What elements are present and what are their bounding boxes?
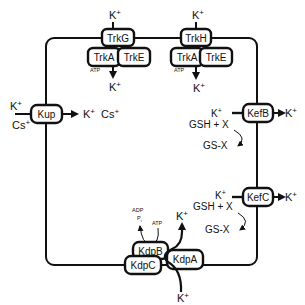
kefb-system: KefB K+ K+ GSH + X GS-X [189, 104, 297, 151]
trkh-output-k: K+ [193, 81, 205, 94]
trkh-system: K+ TrkH TrkA TrkE ATP K+ [171, 8, 232, 94]
kefc-label: KefC [247, 192, 269, 203]
trkg-system: K+ TrkG TrkA TrkE ATP K+ [88, 8, 150, 93]
trkh-label: TrkH [185, 33, 206, 44]
kdp-adp: ADP [132, 207, 144, 213]
trkh-trka-label: TrkA [177, 52, 198, 63]
trkg-trka-label: TrkA [94, 52, 115, 63]
trkh-trke-label: TrkE [206, 52, 227, 63]
kefc-product: GS-X [205, 224, 230, 235]
kefc-inner-k: K+ [215, 189, 226, 201]
kup-system: K+ Cs+ Kup K+ Cs+ [10, 99, 119, 131]
kefc-system: KefC K+ K+ GSH + X GS-X [193, 188, 297, 235]
kefc-output-k: K+ [285, 190, 297, 203]
kdp-pi: Pi [137, 215, 142, 223]
trkh-atp: ATP [174, 67, 185, 73]
trkg-atp: ATP [90, 67, 101, 73]
kefc-reaction: GSH + X [193, 201, 233, 212]
kefb-label: KefB [247, 108, 269, 119]
trkg-trke-label: TrkE [124, 52, 145, 63]
kdp-atp: ATP [152, 220, 163, 226]
trkg-label: TrkG [107, 33, 129, 44]
kdp-system: ADP Pi ATP KdpB KdpC KdpA K+ K+ [125, 207, 203, 304]
kefb-reaction-arrow [234, 130, 242, 146]
kdp-input-k: K+ [177, 291, 189, 304]
kup-input-k: K+ [10, 99, 22, 112]
kdp-output-k: K+ [176, 209, 188, 222]
kup-input-cs: Cs+ [12, 118, 30, 131]
kdpa-label: KdpA [173, 254, 198, 265]
kdpc-label: KdpC [130, 260, 155, 271]
trkg-input-k: K+ [109, 8, 121, 21]
kup-output-k: K+ [83, 107, 95, 120]
kefb-reaction: GSH + X [189, 119, 229, 130]
kefb-product: GS-X [203, 140, 228, 151]
trkh-input-k: K+ [192, 8, 204, 21]
kefb-inner-k: K+ [211, 107, 222, 119]
kefc-reaction-arrow [238, 213, 246, 230]
potassium-transport-diagram: K+ TrkG TrkA TrkE ATP K+ K+ TrkH TrkA Tr… [0, 0, 305, 305]
kup-output-cs: Cs+ [101, 107, 119, 120]
kefb-output-k: K+ [285, 106, 297, 119]
trkg-output-k: K+ [109, 80, 121, 93]
kup-label: Kup [38, 109, 56, 120]
